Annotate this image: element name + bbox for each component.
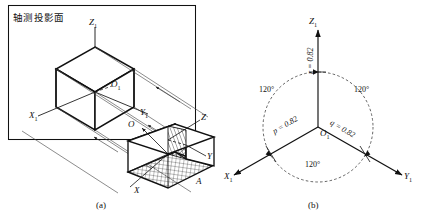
caption-a: (a) (96, 200, 106, 210)
label-y-object: Y (207, 152, 212, 161)
label-z1-projected: Z1 (89, 18, 97, 29)
label-z-object: Z (201, 113, 206, 122)
panel-a-group (9, 6, 215, 194)
q-dimension-marks (360, 146, 370, 162)
caption-b: (b) (308, 200, 319, 210)
label-o-object: O (128, 120, 135, 129)
label-x1-axis-b: X1 (224, 172, 233, 183)
angle-left: 120° (259, 85, 274, 94)
label-x-object: X (134, 186, 140, 195)
angle-right: 120° (354, 85, 369, 94)
label-a-object: A (196, 177, 202, 186)
label-x1-projected: X1 (29, 111, 38, 122)
coefficient-r: r = 0.82 (306, 47, 315, 74)
b-y1-axis (318, 127, 402, 175)
p-dimension-marks (266, 146, 276, 162)
label-o1-projected: O1 (111, 80, 121, 91)
figure-isometric-projection: 轴测投影面 Z1 X1 Y1 O1 O X Y Z A (a) Z1 X1 Y1… (0, 0, 424, 222)
label-y1-axis-b: Y1 (404, 172, 412, 183)
figure-vector-canvas (0, 0, 424, 222)
projection-plane-label: 轴测投影面 (13, 10, 65, 24)
projected-cube (56, 47, 134, 130)
label-z1-axis-b: Z1 (309, 17, 317, 28)
object-cube-inner-hatch (168, 126, 186, 159)
label-o1-origin-b: O1 (320, 129, 330, 140)
label-y1-projected: Y1 (140, 108, 148, 119)
angle-bottom: 120° (305, 160, 320, 169)
